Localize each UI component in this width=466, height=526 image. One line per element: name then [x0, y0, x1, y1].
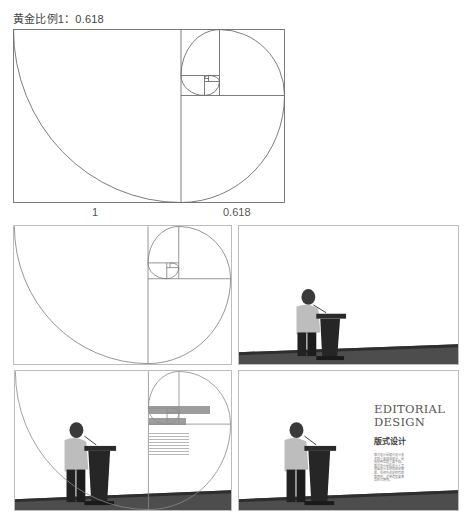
panel-spiral-grid: [13, 225, 232, 365]
panel-speaker-grid-overlay: [14, 370, 232, 511]
golden-spiral-overlay: [15, 371, 231, 510]
golden-spiral-diagram: [13, 29, 285, 203]
editorial-heading-line2: DESIGN: [374, 416, 454, 429]
diagram-title: 黄金比例1：0.618: [13, 10, 104, 26]
golden-spiral-diagram: [14, 226, 231, 364]
editorial-body-text: 版式设计是现代设计艺术的重要组成部分，是视觉传达的重要手段。版式设计是指设计人员…: [374, 454, 404, 483]
stage-photo: [239, 226, 458, 364]
ratio-label-one: 1: [92, 206, 98, 218]
subheading-block: [149, 418, 186, 425]
ratio-label-0618: 0.618: [223, 206, 251, 218]
speaker-figure: [285, 422, 337, 505]
body-text-lines: [149, 433, 189, 457]
editorial-text-block: EDITORIAL DESIGN 版式设计 版式设计是现代设计艺术的重要组成部分…: [374, 403, 454, 483]
heading-block: [149, 406, 210, 414]
panel-editorial-layout: EDITORIAL DESIGN 版式设计 版式设计是现代设计艺术的重要组成部分…: [238, 370, 459, 511]
editorial-subheading: 版式设计: [374, 435, 454, 446]
panel-speaker-photo: [238, 225, 459, 365]
